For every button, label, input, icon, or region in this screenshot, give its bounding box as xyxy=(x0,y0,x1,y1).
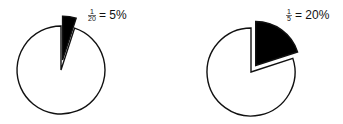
pie-chart-5-percent xyxy=(17,16,105,114)
pie-charts: 1 20 = 5% 1 5 = 20% xyxy=(0,0,343,124)
annotation-5-percent: 1 20 = 5% xyxy=(88,8,127,22)
fraction-denominator: 5 xyxy=(287,15,291,22)
pie-slice-rest xyxy=(17,26,105,114)
percent-label: = 5% xyxy=(99,8,127,22)
pie-chart-20-percent xyxy=(207,22,298,116)
fraction-numerator: 1 xyxy=(287,8,291,15)
annotation-20-percent: 1 5 = 20% xyxy=(286,8,330,22)
percent-label: = 20% xyxy=(295,8,330,22)
fraction-denominator: 20 xyxy=(88,15,96,22)
fraction-numerator: 1 xyxy=(90,8,94,15)
